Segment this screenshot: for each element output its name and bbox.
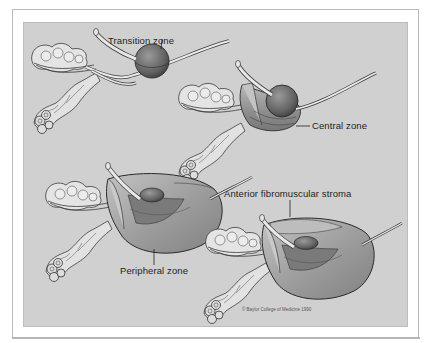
label-anterior-fibromuscular-stroma: Anterior fibromuscular stroma bbox=[224, 188, 352, 199]
label-transition-zone: Transition zone bbox=[108, 35, 174, 46]
bottom-divider bbox=[12, 337, 420, 339]
panel-anterior-fibromuscular-stroma bbox=[204, 200, 402, 324]
label-peripheral-zone: Peripheral zone bbox=[120, 265, 188, 276]
prostate-zones-illustration bbox=[24, 23, 408, 327]
label-central-zone: Central zone bbox=[312, 120, 367, 131]
panel-peripheral-zone bbox=[46, 163, 252, 282]
copyright-notice: © Baylor College of Medicine 1990 bbox=[242, 307, 311, 312]
anatomy-figure: Transition zone Central zone Peripheral … bbox=[23, 22, 408, 327]
